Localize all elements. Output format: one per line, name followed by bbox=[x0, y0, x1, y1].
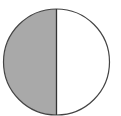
shaded-left-half bbox=[4, 9, 57, 115]
half-shaded-circle-diagram bbox=[0, 0, 121, 116]
